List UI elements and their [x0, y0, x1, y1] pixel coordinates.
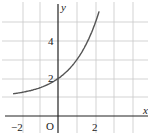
- function-curve: [13, 11, 99, 93]
- y-tick-4: 4: [48, 35, 54, 47]
- graph: y x O −2 2 4 2: [0, 0, 148, 133]
- x-tick-2: 2: [92, 121, 98, 133]
- y-axis-label: y: [60, 1, 66, 13]
- origin-label: O: [46, 120, 54, 132]
- grid: [2, 2, 148, 133]
- x-axis-label: x: [142, 104, 148, 116]
- y-tick-2: 2: [48, 72, 54, 84]
- x-tick-neg2: −2: [11, 121, 23, 133]
